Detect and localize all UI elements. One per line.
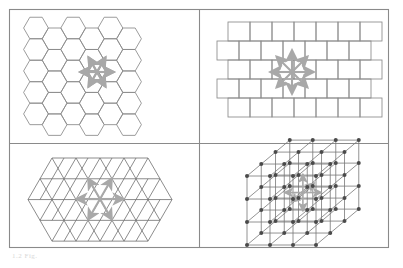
lattice-node xyxy=(343,150,347,154)
lattice-node xyxy=(305,162,309,166)
lattice-node xyxy=(274,219,278,223)
lattice-node xyxy=(343,173,347,177)
lattice-node xyxy=(305,208,309,212)
lattice-node xyxy=(334,138,338,142)
lattice-node xyxy=(259,208,263,212)
lattice-node xyxy=(291,220,295,224)
lattice-node xyxy=(311,207,315,211)
lattice-node xyxy=(334,184,338,188)
canvas-background xyxy=(0,0,403,268)
lattice-node xyxy=(320,150,324,154)
lattice-node xyxy=(268,243,272,247)
lattice-node xyxy=(282,162,286,166)
lattice-node xyxy=(357,138,361,142)
lattice-node xyxy=(314,243,318,247)
figure-caption: 1.2 Fig. xyxy=(12,252,38,260)
lattice-node xyxy=(314,197,318,201)
lattice-node xyxy=(357,184,361,188)
lattice-node xyxy=(288,184,292,188)
lattice-node xyxy=(334,161,338,165)
lattice-node xyxy=(311,184,315,188)
lattice-node xyxy=(274,150,278,154)
lattice-node xyxy=(288,207,292,211)
lattice-node xyxy=(328,208,332,212)
lattice-node xyxy=(343,196,347,200)
lattice-node xyxy=(282,231,286,235)
lattice-node xyxy=(320,173,324,177)
lattice-node xyxy=(297,173,301,177)
lattice-node xyxy=(297,150,301,154)
lattice-node xyxy=(259,162,263,166)
lattice-node xyxy=(291,197,295,201)
lattice-node xyxy=(268,174,272,178)
lattice-node xyxy=(311,161,315,165)
lattice-node xyxy=(328,185,332,189)
brick-neighbour-arrows xyxy=(270,50,314,94)
lattice-node xyxy=(343,219,347,223)
lattice-node xyxy=(274,196,278,200)
lattice-node xyxy=(259,185,263,189)
lattice-node xyxy=(328,162,332,166)
lattice-node xyxy=(305,185,309,189)
lattice-node xyxy=(291,174,295,178)
lattice-node xyxy=(245,197,249,201)
lattice-node xyxy=(297,219,301,223)
lattice-node xyxy=(288,161,292,165)
lattice-node xyxy=(274,173,278,177)
lattice-node xyxy=(320,219,324,223)
lattice-node xyxy=(314,174,318,178)
lattice-node xyxy=(320,196,324,200)
lattice-node xyxy=(245,220,249,224)
lattice-node xyxy=(245,174,249,178)
lattice-node xyxy=(311,138,315,142)
lattice-node xyxy=(291,243,295,247)
lattice-node xyxy=(282,185,286,189)
lattice-node xyxy=(245,243,249,247)
lattice-node xyxy=(357,161,361,165)
lattice-node xyxy=(357,207,361,211)
lattice-node xyxy=(288,138,292,142)
lattice-figure-canvas xyxy=(0,0,403,268)
lattice-node xyxy=(334,207,338,211)
lattice-node xyxy=(297,196,301,200)
lattice-node xyxy=(282,208,286,212)
lattice-node xyxy=(268,220,272,224)
figure-root: 1.2 Fig. xyxy=(0,0,403,268)
lattice-node xyxy=(314,220,318,224)
lattice-node xyxy=(268,197,272,201)
lattice-node xyxy=(259,231,263,235)
lattice-node xyxy=(328,231,332,235)
lattice-node xyxy=(305,231,309,235)
